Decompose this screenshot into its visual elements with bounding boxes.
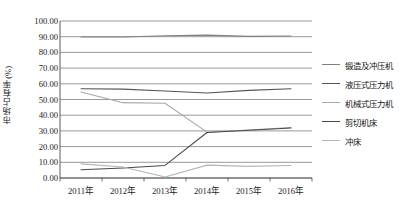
legend-item[interactable]: 机械式压力机	[322, 93, 415, 112]
x-axis-tick-label: 2016年	[278, 184, 304, 196]
y-axis-tick-label: 50.00	[12, 95, 58, 105]
gridlines	[60, 21, 312, 178]
x-axis-tick-label: 2013年	[152, 184, 178, 196]
x-axis-tick-label: 2015年	[236, 184, 262, 196]
legend-item[interactable]: 液压式压力机	[322, 74, 415, 93]
y-axis-tick-label: 90.00	[12, 32, 58, 42]
y-axis-tick-labels: 0.0010.0020.0030.0040.0050.0060.0070.008…	[10, 0, 58, 190]
legend-line-swatch	[322, 83, 340, 84]
legend-label: 机械式压力机	[345, 97, 393, 109]
series-line-4	[81, 164, 291, 177]
y-axis-tick-label: 70.00	[12, 63, 58, 73]
y-axis-tick-label: 20.00	[12, 142, 58, 152]
series-line-2	[81, 92, 291, 132]
chart-legend: 锻造及冲压机液压式压力机机械式压力机剪切机床冲床	[322, 55, 415, 150]
y-axis-tick-label: 10.00	[12, 157, 58, 167]
legend-line-swatch	[322, 102, 340, 103]
series-line-1	[81, 89, 291, 93]
y-axis-tick-label: 100.00	[12, 16, 58, 26]
legend-item[interactable]: 剪切机床	[322, 112, 415, 131]
x-axis-tick-label: 2014年	[194, 184, 220, 196]
y-axis-tick-label: 30.00	[12, 126, 58, 136]
legend-label: 锻造及冲压机	[345, 59, 393, 71]
series-lines	[81, 35, 291, 177]
legend-item[interactable]: 冲床	[322, 131, 415, 150]
legend-line-swatch	[322, 121, 340, 122]
legend-label: 剪切机床	[345, 116, 377, 128]
legend-line-swatch	[322, 64, 340, 65]
x-axis-tick-label: 2012年	[110, 184, 136, 196]
x-axis-tick-marks	[60, 178, 312, 182]
legend-line-swatch	[322, 140, 340, 141]
x-axis-tick-label: 2011年	[68, 184, 94, 196]
y-axis-tick-label: 80.00	[12, 47, 58, 57]
legend-label: 液压式压力机	[345, 78, 393, 90]
legend-item[interactable]: 锻造及冲压机	[322, 55, 415, 74]
chart-container: 市场占有率(%) 0.0010.0020.0030.0040.0050.0060…	[0, 0, 415, 216]
y-axis-tick-label: 40.00	[12, 110, 58, 120]
y-axis-tick-label: 60.00	[12, 79, 58, 89]
y-axis-tick-label: 0.00	[12, 173, 58, 183]
legend-label: 冲床	[345, 135, 361, 147]
series-line-3	[81, 128, 291, 170]
